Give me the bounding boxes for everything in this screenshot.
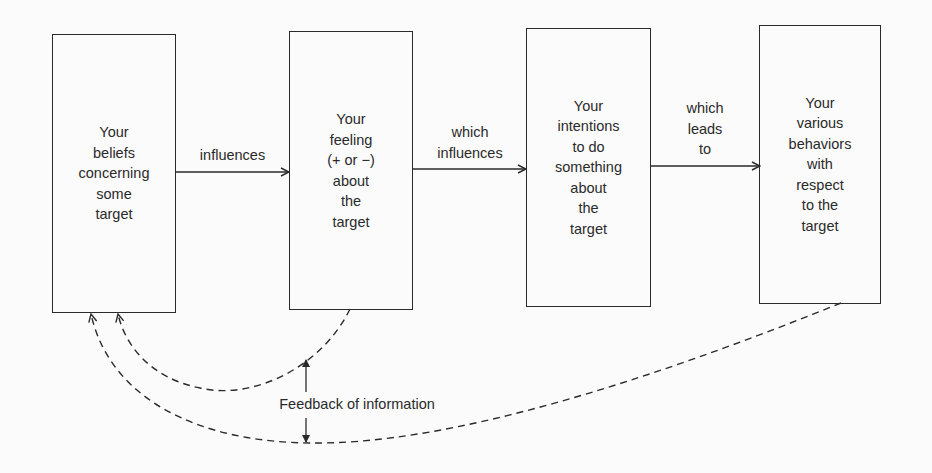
- box-feeling-text: Your feeling (+ or −) about the target: [327, 109, 375, 232]
- feedback-curve-behaviors: [91, 303, 841, 443]
- box-intentions-text: Your intentions to do something about th…: [555, 96, 622, 240]
- edge-label-which-influences: which influences: [420, 122, 520, 163]
- box-beliefs-text: Your beliefs concerning some target: [79, 122, 150, 225]
- box-feeling: Your feeling (+ or −) about the target: [289, 31, 413, 310]
- box-beliefs: Your beliefs concerning some target: [52, 34, 176, 313]
- box-behaviors-text: Your various behaviors with respect to t…: [789, 93, 852, 237]
- box-intentions: Your intentions to do something about th…: [526, 28, 651, 307]
- box-behaviors: Your various behaviors with respect to t…: [759, 25, 881, 304]
- edge-label-influences: influences: [185, 145, 280, 166]
- feedback-curve-feeling: [118, 309, 350, 391]
- feedback-label: Feedback of information: [262, 394, 452, 415]
- edge-label-which-leads-to: which leads to: [665, 98, 745, 160]
